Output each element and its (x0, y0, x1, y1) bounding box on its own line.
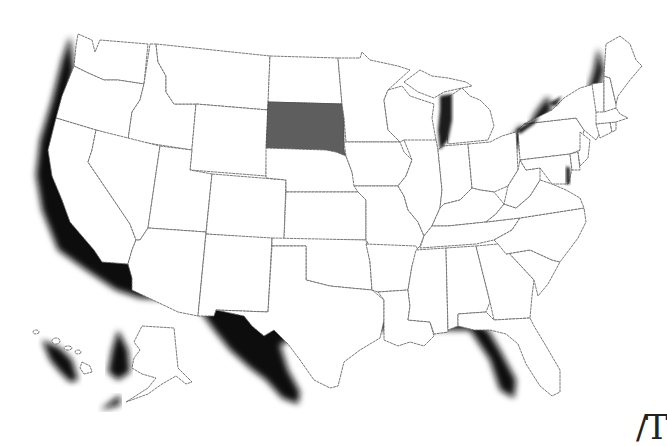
hawaii-island-big[interactable] (80, 362, 92, 374)
hawaii-island-molokai[interactable] (64, 346, 72, 350)
state-arizona[interactable] (128, 228, 206, 316)
alaska-inset (126, 326, 192, 402)
state-colorado[interactable] (206, 174, 286, 240)
state-kansas[interactable] (284, 192, 366, 240)
state-new-jersey[interactable] (578, 132, 590, 166)
state-alaska[interactable] (126, 326, 192, 402)
chesapeake-bay (566, 166, 570, 184)
cropped-corner-text: /T (636, 410, 666, 444)
state-new-mexico[interactable] (198, 234, 272, 316)
state-north-dakota[interactable] (268, 56, 342, 104)
hawaii-island-oahu[interactable] (52, 338, 60, 344)
state-iowa[interactable] (344, 142, 412, 186)
hawaii-island-niihau[interactable] (33, 330, 39, 334)
state-wyoming[interactable] (190, 104, 268, 176)
state-south-dakota[interactable] (266, 102, 346, 156)
hawaii-island-maui[interactable] (75, 350, 81, 354)
state-montana[interactable] (156, 44, 270, 110)
